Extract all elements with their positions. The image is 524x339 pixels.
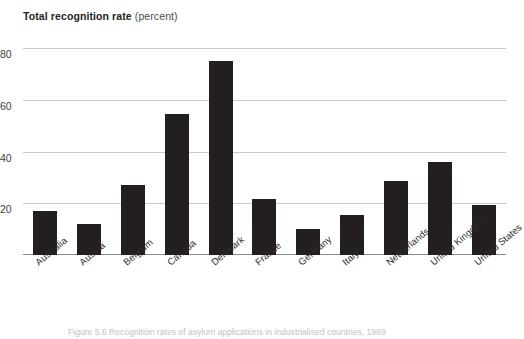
y-tick-label-20: 20 [0, 204, 20, 215]
axis-title-unit: (percent) [132, 10, 178, 22]
bar-slot [199, 48, 243, 255]
axis-title-bold: Total recognition rate [23, 10, 132, 22]
y-tick-label-80: 80 [0, 49, 20, 60]
figure-container: Total recognition rate (percent) 2040608… [0, 0, 524, 339]
bar-slot [155, 48, 199, 255]
bar-slot [243, 48, 287, 255]
plot-area: 20406080 [23, 48, 506, 255]
bar-slot [67, 48, 111, 255]
y-tick-label-60: 60 [0, 101, 20, 112]
axis-title: Total recognition rate (percent) [23, 10, 183, 23]
bar-slot [111, 48, 155, 255]
y-tick-label-40: 40 [0, 153, 20, 164]
bars-group [23, 48, 506, 255]
bar-canada [165, 114, 189, 255]
bar-slot [418, 48, 462, 255]
bar-slot [374, 48, 418, 255]
bar-slot [330, 48, 374, 255]
figure-caption: Figure 5.6 Recognition rates of asylum a… [68, 327, 498, 338]
bar-denmark [209, 61, 233, 255]
bar-slot [23, 48, 67, 255]
x-axis-labels: AustraliaAustriaBelgiumCanadaDenmarkFran… [23, 256, 506, 316]
bar-slot [286, 48, 330, 255]
